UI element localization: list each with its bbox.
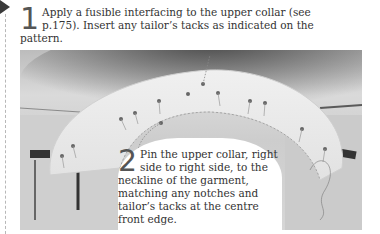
step-1: 1 Apply a fusible interfacing to the upp… <box>20 6 320 45</box>
step-2-text: Pin the upper collar, right side to righ… <box>118 148 278 225</box>
step-2: 2 Pin the upper collar, right side to ri… <box>118 148 278 226</box>
page-margin-dashed-rule <box>5 14 6 234</box>
step-2-number: 2 <box>118 149 137 173</box>
step-1-text: Apply a fusible interfacing to the upper… <box>20 6 314 44</box>
step-1-number: 1 <box>20 7 39 31</box>
section-pointer-triangle-icon <box>0 0 10 14</box>
